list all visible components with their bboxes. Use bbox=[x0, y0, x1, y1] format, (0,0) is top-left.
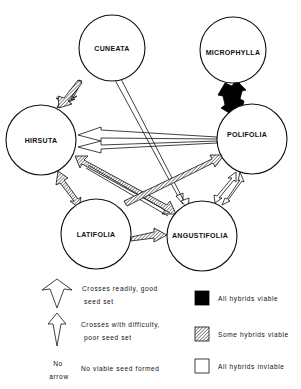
node-hirsuta: HIRSUTA bbox=[6, 105, 76, 175]
legend-label-all-viable: All hybrids viable bbox=[218, 295, 278, 303]
crossing-diagram: CUNEATA MICROPHYLLA HIRSUTA POLIFOLIA LA… bbox=[0, 0, 301, 389]
legend: Crosses readily, good seed set Crosses w… bbox=[42, 279, 289, 380]
arrow-latifolia-angustifolia bbox=[131, 228, 167, 242]
node-label-angustifolia: ANGUSTIFOLIA bbox=[172, 232, 228, 239]
legend-label-poor-seed-set: poor seed set bbox=[84, 334, 132, 342]
legend-no-arrow-line1: No bbox=[53, 360, 63, 367]
node-polifolia: POLIFOLIA bbox=[217, 104, 287, 174]
arrow-latifolia-polifolia bbox=[124, 155, 224, 206]
arrow-hirsuta-latifolia bbox=[56, 171, 81, 208]
node-latifolia: LATIFOLIA bbox=[61, 199, 131, 269]
node-cuneata: CUNEATA bbox=[79, 15, 145, 81]
legend-label-crosses-readily: Crosses readily, good bbox=[82, 285, 158, 293]
legend-no-arrow-line2: arrow bbox=[49, 373, 69, 380]
legend-arrow-broad-icon bbox=[42, 279, 72, 308]
node-label-microphylla: MICROPHYLLA bbox=[206, 49, 261, 56]
legend-label-some-viable: Some hybrids viable bbox=[218, 331, 289, 339]
legend-label-crosses-difficulty: Crosses with difficulty, bbox=[81, 321, 160, 329]
legend-label-all-inviable: All hybrids inviable bbox=[218, 363, 285, 371]
node-label-polifolia: POLIFOLIA bbox=[227, 131, 267, 138]
node-label-cuneata: CUNEATA bbox=[94, 45, 129, 52]
legend-swatch-solid bbox=[195, 291, 209, 305]
legend-label-no-viable-seed: No viable seed formed bbox=[81, 365, 160, 372]
node-label-hirsuta: HIRSUTA bbox=[25, 137, 58, 144]
node-angustifolia: ANGUSTIFOLIA bbox=[167, 201, 237, 271]
node-label-latifolia: LATIFOLIA bbox=[77, 231, 116, 238]
arrow-polifolia-angustifolia bbox=[214, 172, 244, 205]
legend-swatch-open bbox=[195, 359, 209, 373]
arrow-cuneata-hirsuta bbox=[56, 80, 82, 108]
legend-swatch-hatched bbox=[195, 327, 209, 341]
node-microphylla: MICROPHYLLA bbox=[200, 17, 266, 83]
legend-label-good-seed-set: seed set bbox=[84, 298, 114, 305]
legend-arrow-narrow-icon bbox=[48, 313, 66, 346]
